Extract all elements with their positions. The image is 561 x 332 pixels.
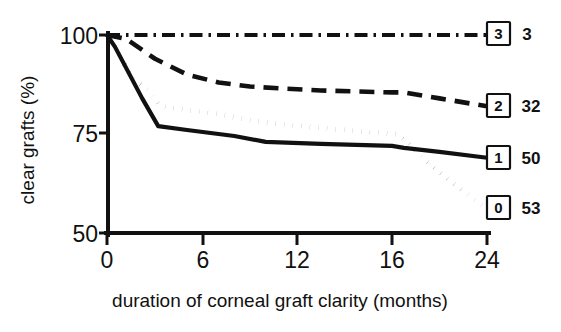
y-tick-label-50: 50 — [72, 221, 98, 247]
x-tick-label-16: 16 — [379, 247, 405, 273]
survival-chart-svg: clear grafts (%) 100 75 50 0 6 12 16 24 … — [0, 0, 561, 332]
x-tick-label-24: 24 — [474, 247, 500, 273]
series-line-2 — [107, 35, 487, 106]
y-tick-label-100: 100 — [60, 23, 98, 49]
series-box-label-0: 0 — [494, 199, 502, 216]
series-box-label-3: 3 — [494, 25, 502, 42]
series-line-1 — [107, 35, 487, 158]
series-end-label-3[interactable]: 3 3 — [487, 22, 532, 45]
series-box-label-2: 2 — [494, 97, 502, 114]
series-count-0: 53 — [522, 199, 541, 218]
series-count-2: 32 — [522, 97, 541, 116]
series-end-label-1[interactable]: 1 50 — [487, 146, 540, 169]
x-tick-label-12: 12 — [284, 247, 310, 273]
series-end-label-2[interactable]: 2 32 — [487, 94, 540, 117]
series-count-3: 3 — [522, 25, 531, 44]
y-tick-label-75: 75 — [72, 121, 98, 147]
x-tick-label-0: 0 — [101, 247, 114, 273]
x-axis-label: duration of corneal graft clarity (month… — [112, 290, 448, 311]
y-axis-label: clear grafts (%) — [17, 76, 38, 205]
chart-root: clear grafts (%) 100 75 50 0 6 12 16 24 … — [0, 0, 561, 332]
series-end-label-0[interactable]: 0 53 — [487, 196, 540, 219]
series-lines-group — [107, 35, 487, 209]
series-line-0 — [107, 35, 487, 209]
series-count-1: 50 — [522, 149, 541, 168]
x-tick-label-6: 6 — [197, 247, 210, 273]
series-box-label-1: 1 — [494, 149, 502, 166]
